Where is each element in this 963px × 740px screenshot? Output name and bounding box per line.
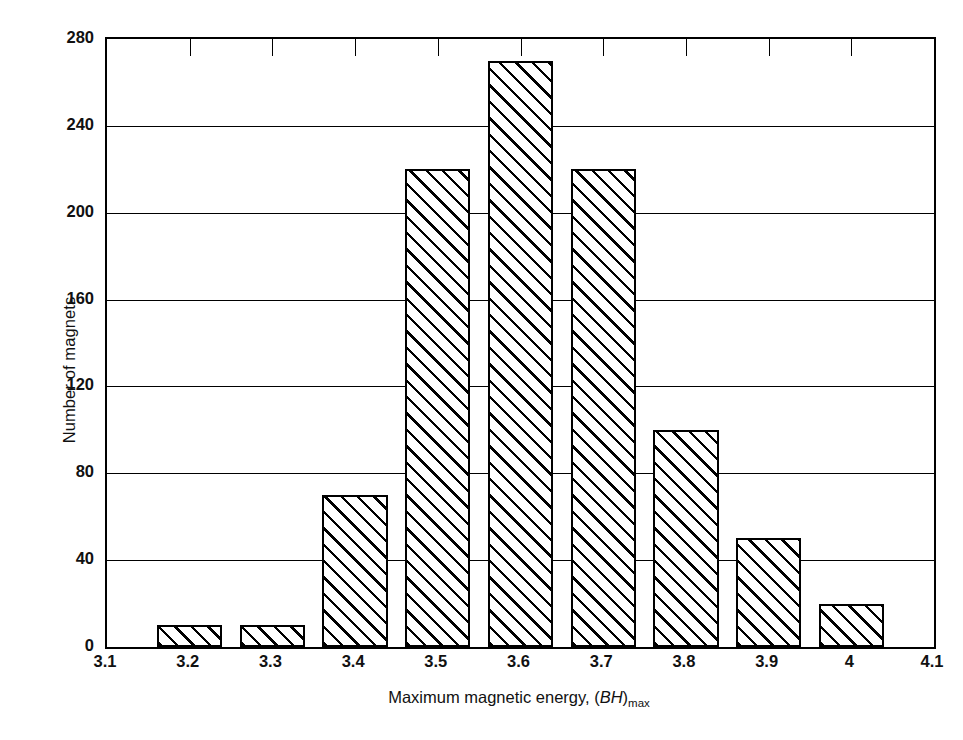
y-tick-label-40: 40 xyxy=(76,550,94,567)
y-tick-label-160: 160 xyxy=(66,289,94,306)
bar-4 xyxy=(819,604,884,647)
bar-3.5 xyxy=(405,169,470,647)
y-tick-label-240: 240 xyxy=(66,116,94,133)
x-tick-label-3.9: 3.9 xyxy=(755,653,778,670)
y-tick-label-80: 80 xyxy=(76,463,94,480)
y-tick-label-120: 120 xyxy=(66,376,94,393)
x-axis-title-prefix: Maximum magnetic energy, ( xyxy=(388,688,600,706)
y-axis-title: Number of magnets xyxy=(46,0,92,740)
x-tick-label-3.7: 3.7 xyxy=(590,653,613,670)
bar-3.8 xyxy=(653,430,718,647)
y-tick-label-0: 0 xyxy=(85,637,94,654)
bar-3.9 xyxy=(736,538,801,647)
x-tick-label-3.6: 3.6 xyxy=(507,653,530,670)
x-tick-label-3.3: 3.3 xyxy=(259,653,282,670)
x-axis-title: Maximum magnetic energy, (BH)max xyxy=(105,688,933,707)
bar-3.4 xyxy=(322,495,387,647)
x-tick-label-3.8: 3.8 xyxy=(672,653,695,670)
x-tick-label-3.2: 3.2 xyxy=(176,653,199,670)
top-tick-3.5 xyxy=(438,39,439,56)
x-tick-label-4.1: 4.1 xyxy=(921,653,944,670)
top-tick-4 xyxy=(851,39,852,56)
top-tick-3.3 xyxy=(272,39,273,56)
plot-area xyxy=(105,37,936,649)
x-axis-title-italic: BH xyxy=(600,688,623,706)
top-tick-3.6 xyxy=(521,39,522,56)
histogram-figure: Number of magnets Maximum magnetic energ… xyxy=(0,0,963,740)
top-tick-3.4 xyxy=(355,39,356,56)
bar-3.3 xyxy=(240,625,305,647)
x-tick-label-3.1: 3.1 xyxy=(94,653,117,670)
bar-3.6 xyxy=(488,61,553,647)
top-tick-3.8 xyxy=(686,39,687,56)
top-tick-3.9 xyxy=(769,39,770,56)
x-tick-label-3.4: 3.4 xyxy=(342,653,365,670)
x-tick-label-4: 4 xyxy=(845,653,854,670)
x-axis-title-subscript: max xyxy=(628,697,650,709)
top-tick-3.7 xyxy=(603,39,604,56)
bar-3.7 xyxy=(571,169,636,647)
top-tick-3.2 xyxy=(190,39,191,56)
x-tick-label-3.5: 3.5 xyxy=(424,653,447,670)
y-tick-label-280: 280 xyxy=(66,29,94,46)
bar-3.2 xyxy=(157,625,222,647)
y-tick-label-200: 200 xyxy=(66,202,94,219)
